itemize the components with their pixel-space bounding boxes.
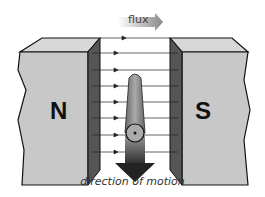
diagram-canvas xyxy=(0,0,265,197)
north-label: N xyxy=(50,97,67,125)
caption: direction of motion xyxy=(0,175,265,188)
conductor xyxy=(125,74,145,142)
south-label: S xyxy=(195,97,211,125)
flux-label: flux xyxy=(128,13,148,26)
